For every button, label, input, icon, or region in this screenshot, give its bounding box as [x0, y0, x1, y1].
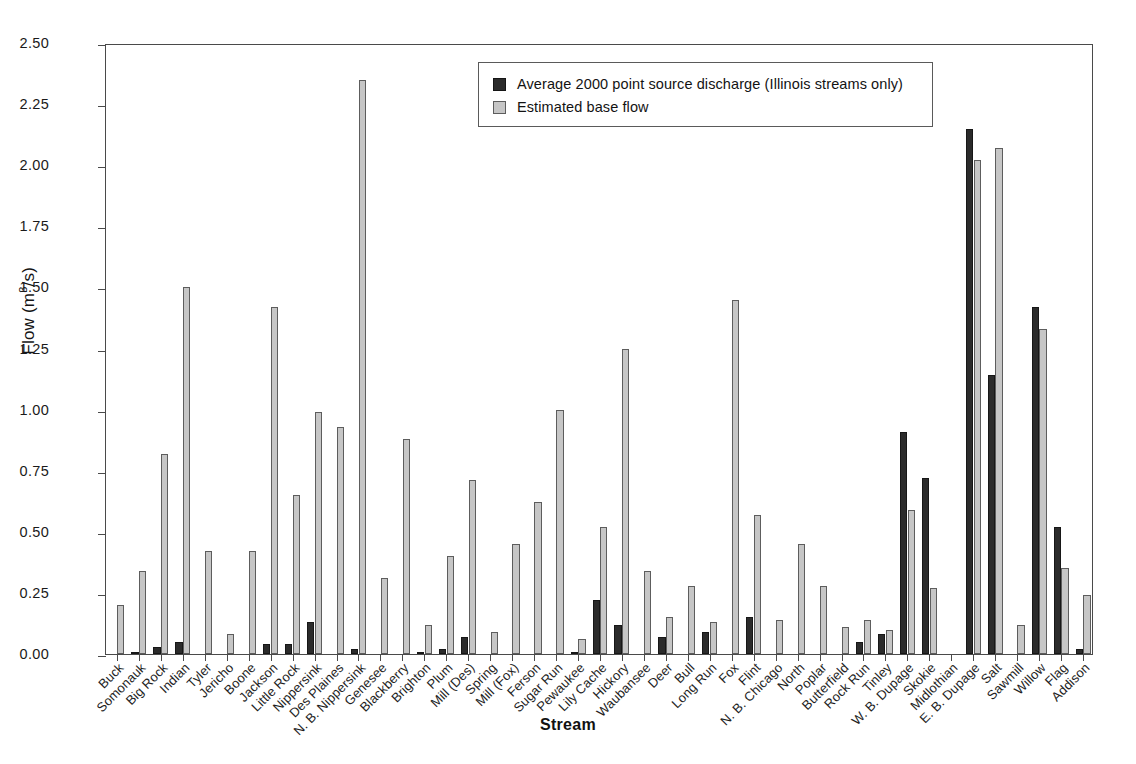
y-axis-title: Flow (m3/s) — [17, 211, 39, 411]
y-tick-label: 2.25 — [0, 96, 49, 112]
bar-group — [263, 45, 278, 654]
bar-group — [197, 45, 212, 654]
y-tick-mark — [98, 167, 106, 168]
chart-legend: Average 2000 point source discharge (Ill… — [478, 62, 933, 127]
x-axis-title: Stream — [0, 716, 1136, 734]
bar-group — [571, 45, 586, 654]
bar-base-flow — [688, 586, 695, 654]
bar-base-flow — [600, 527, 607, 654]
bar-base-flow — [315, 412, 322, 654]
bar-point-source — [1054, 527, 1061, 654]
bar-point-source — [746, 617, 753, 654]
y-tick-mark — [98, 228, 106, 229]
bar-group — [241, 45, 256, 654]
bar-group — [373, 45, 388, 654]
bar-point-source — [614, 625, 621, 654]
y-tick-mark — [98, 45, 106, 46]
y-tick-mark — [98, 412, 106, 413]
bar-base-flow — [447, 556, 454, 654]
bar-base-flow — [1083, 595, 1090, 654]
bar-base-flow — [1017, 625, 1024, 654]
y-tick-label: 0.25 — [0, 585, 49, 601]
bar-base-flow — [381, 578, 388, 654]
bar-base-flow — [534, 502, 541, 654]
bar-group — [1076, 45, 1091, 654]
bar-point-source — [461, 637, 468, 654]
bar-group — [966, 45, 981, 654]
bar-group — [461, 45, 476, 654]
legend-swatch-light — [493, 101, 506, 114]
y-tick-mark — [98, 473, 106, 474]
bar-group — [153, 45, 168, 654]
plot-area: 0.000.250.500.751.001.251.501.752.002.25… — [105, 44, 1093, 655]
bar-point-source — [175, 642, 182, 654]
bar-point-source — [966, 129, 973, 654]
bar-base-flow — [732, 300, 739, 654]
bar-group — [219, 45, 234, 654]
bar-group — [109, 45, 124, 654]
bar-point-source — [900, 432, 907, 654]
bar-base-flow — [117, 605, 124, 654]
bar-base-flow — [425, 625, 432, 654]
bar-base-flow — [403, 439, 410, 654]
bar-base-flow — [930, 588, 937, 654]
bar-group — [812, 45, 827, 654]
bar-base-flow — [512, 544, 519, 654]
bar-group — [614, 45, 629, 654]
bar-base-flow — [556, 410, 563, 654]
bar-base-flow — [886, 630, 893, 654]
bar-group — [1010, 45, 1025, 654]
bar-base-flow — [995, 148, 1002, 654]
bar-base-flow — [293, 495, 300, 654]
bar-base-flow — [271, 307, 278, 654]
bar-group — [944, 45, 959, 654]
bars-container — [106, 45, 1092, 654]
bar-base-flow — [337, 427, 344, 654]
bar-group — [351, 45, 366, 654]
bar-group — [1032, 45, 1047, 654]
bar-point-source — [922, 478, 929, 654]
y-tick-label: 1.25 — [0, 341, 49, 357]
bar-point-source — [1032, 307, 1039, 654]
bar-point-source — [1076, 649, 1083, 654]
bar-group — [527, 45, 542, 654]
bar-point-source — [702, 632, 709, 654]
bar-group — [329, 45, 344, 654]
bar-base-flow — [820, 586, 827, 654]
y-tick-mark — [98, 534, 106, 535]
bar-group — [746, 45, 761, 654]
bar-group — [702, 45, 717, 654]
bar-group — [658, 45, 673, 654]
y-tick-label: 1.50 — [0, 279, 49, 295]
y-tick-mark — [98, 106, 106, 107]
bar-base-flow — [908, 510, 915, 654]
legend-label-point-source: Average 2000 point source discharge (Ill… — [517, 76, 903, 92]
bar-base-flow — [227, 634, 234, 654]
bar-group — [790, 45, 805, 654]
bar-base-flow — [864, 620, 871, 654]
bar-base-flow — [1039, 329, 1046, 654]
bar-group — [680, 45, 695, 654]
bar-group — [439, 45, 454, 654]
bar-group — [505, 45, 520, 654]
bar-base-flow — [974, 160, 981, 654]
bar-group — [483, 45, 498, 654]
y-tick-label: 0.75 — [0, 463, 49, 479]
bar-group — [1054, 45, 1069, 654]
bar-base-flow — [359, 80, 366, 654]
bar-group — [417, 45, 432, 654]
y-tick-label: 0.50 — [0, 524, 49, 540]
bar-base-flow — [139, 571, 146, 654]
bar-group — [768, 45, 783, 654]
bar-point-source — [593, 600, 600, 654]
bar-group — [988, 45, 1003, 654]
bar-base-flow — [798, 544, 805, 654]
bar-base-flow — [754, 515, 761, 654]
bar-base-flow — [622, 349, 629, 655]
y-tick-label: 1.00 — [0, 402, 49, 418]
bar-group — [900, 45, 915, 654]
legend-label-base-flow: Estimated base flow — [517, 99, 649, 115]
y-tick-mark — [98, 656, 106, 657]
bar-group — [549, 45, 564, 654]
bar-group — [834, 45, 849, 654]
